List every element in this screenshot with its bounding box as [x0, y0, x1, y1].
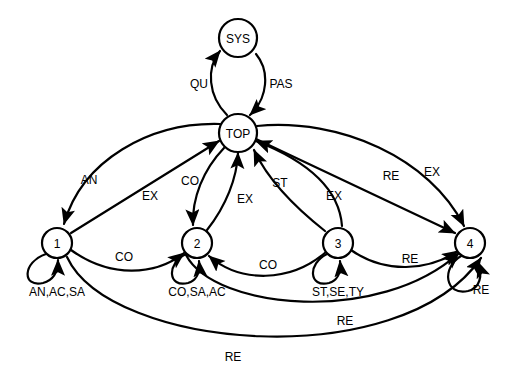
node-sys-label: SYS [226, 32, 250, 46]
edge-label-ex-s1-to-top: EX [142, 189, 158, 203]
node-state-1-label: 1 [54, 237, 61, 251]
edge-top-to-sys-qu [211, 51, 227, 115]
state-transition-diagram: SYS TOP 1 2 3 4 [0, 0, 516, 387]
edge-label-ex-s3-to-top: EX [326, 189, 342, 203]
edge-label-co-top-to-s2: CO [181, 174, 199, 188]
node-state-3-label: 3 [335, 237, 342, 251]
edge-sys-to-top-pas [250, 54, 265, 115]
node-state-1[interactable]: 1 [42, 228, 72, 258]
self-loop-label-s1: AN,AC,SA [29, 285, 85, 299]
node-state-3[interactable]: 3 [323, 228, 353, 258]
edge-label-ex-top-to-s4: EX [424, 165, 440, 179]
self-loop-label-s3: ST,SE,TY [312, 285, 364, 299]
node-state-4[interactable]: 4 [455, 228, 485, 258]
node-state-2[interactable]: 2 [182, 228, 212, 258]
edge-label-st-s3-to-top: ST [272, 176, 288, 190]
edge-s3-to-top-st [254, 150, 325, 231]
edges-layer [28, 51, 481, 337]
edge-s3-to-top-ex [256, 141, 342, 226]
edge-label-re-s3-to-s4: RE [402, 252, 419, 266]
edge-label-qu: QU [190, 77, 208, 91]
self-loop-label-s4: RE [473, 283, 490, 297]
self-loop-label-s2: CO,SA,AC [168, 285, 226, 299]
edge-label-re-top-to-s4: RE [383, 169, 400, 183]
edge-label-co-s3-to-s2: CO [259, 258, 277, 272]
state-diagram-container: SYS TOP 1 2 3 4 [0, 0, 516, 387]
nodes-layer: SYS TOP 1 2 3 4 [42, 19, 485, 258]
node-top-label: TOP [226, 127, 250, 141]
node-state-2-label: 2 [194, 237, 201, 251]
node-top[interactable]: TOP [219, 114, 257, 152]
edge-label-an-top-to-s1: AN [81, 173, 98, 187]
edge-label-re-s2-to-s4: RE [337, 314, 354, 328]
edge-label-ex-s2-to-top: EX [237, 192, 253, 206]
node-state-4-label: 4 [467, 237, 474, 251]
edge-label-pas: PAS [269, 77, 292, 91]
edge-label-co-s1-to-s2: CO [115, 250, 133, 264]
edge-label-re-s1-to-s4: RE [225, 350, 242, 364]
node-sys[interactable]: SYS [219, 19, 257, 57]
